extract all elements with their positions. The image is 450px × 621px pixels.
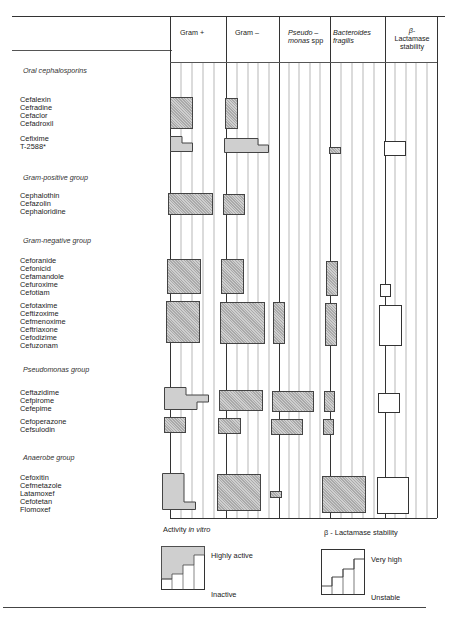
bar-gramneg1-gram-neg [221,259,244,294]
bar-pseudo1-gram-neg [219,390,263,411]
legend-activity-diagram [161,546,211,596]
legend-activity-low: Inactive [211,590,236,599]
group-title-oral: Oral cephalosporins [23,66,87,75]
bar-anaerobe-bacteroides [322,476,366,513]
drug-t2588: T-2588* [20,143,46,151]
bar-pseudo2-gram-pos [164,417,186,433]
legend-activity-title-plain: Activity [163,525,188,534]
bar-pseudo1-gram-pos [164,387,214,412]
group-title-gram-negative: Gram-negative group [23,236,91,245]
legend-stability-title-text: β - Lactamase stability [324,528,398,537]
bar-oral2-bacteroides [329,147,341,154]
beta-gramneg2 [379,305,402,346]
legend-stability-diagram [321,549,371,601]
bar-oral2-gram-neg [224,138,274,158]
bar-oral1-gram-neg [225,98,238,129]
drug-cefepime: Cefepime [20,405,52,413]
legend-activity-title-italic: in vitro [188,525,210,534]
drug-cefotiam: Cefotiam [20,289,50,297]
bar-pseudo1-pseudomonas [272,391,314,412]
bar-pseudo2-bacteroides [323,419,334,435]
bar-anaerobe-gram-neg [217,474,261,511]
bar-anaerobe-pseudomonas [270,491,282,498]
bar-pseudo2-pseudomonas [271,419,303,435]
bar-pseudo1-bacteroides [324,391,335,412]
bar-oral1-gram-pos [170,97,193,129]
bar-gramneg1-gram-pos [167,259,201,294]
bar-gramneg2-gram-neg [220,302,265,344]
bar-pseudo2-gram-neg [218,418,241,434]
legend-activity-high: Highly active [211,551,253,560]
beta-anaerobe [377,477,409,514]
drug-cefsulodin: Cefsulodin [20,426,55,434]
bar-gramneg1-bacteroides [326,261,338,296]
bar-gramneg2-bacteroides [325,303,337,346]
legend-stability-high: Very high [371,555,402,564]
bar-gramneg2-pseudomonas [273,302,285,344]
bar-gramneg2-gram-pos [166,301,200,343]
legend-activity-title: Activity in vitro [163,525,210,534]
drug-cefuzonam: Cefuzonam [20,342,58,350]
drug-cephaloridine: Cephaloridine [20,208,66,216]
bar-oral2-gram-pos [170,136,210,156]
group-title-gram-positive: Gram-positive group [23,173,88,182]
drug-flomoxef: Flomoxef [20,506,50,514]
legend-stability-title: β - Lactamase stability [324,528,398,537]
group-title-pseudomonas: Pseudomonas group [23,365,89,374]
bar-grampos-gram-neg [223,194,245,215]
beta-gramneg1 [380,284,391,297]
bar-grampos-gram-pos [168,193,213,215]
beta-pseudo1 [378,393,400,413]
legend-stability-low: Unstable [371,593,400,602]
drug-cefadroxil: Cefadroxil [20,120,53,128]
bar-anaerobe-gram-pos [162,473,202,513]
group-title-anaerobe: Anaerobe group [23,453,75,462]
beta-oral2 [384,141,406,156]
